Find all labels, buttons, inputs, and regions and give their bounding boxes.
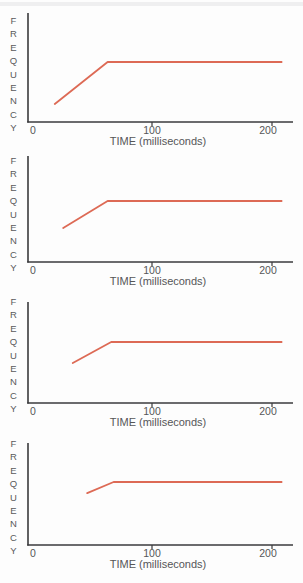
plot-area: 0 100 200 TIME (milliseconds) [0,0,303,160]
figure-four-frequency-time-panels: FREQUENCY 0 100 200 TIME (milliseconds) … [0,0,303,583]
x-tick-label-200: 200 [259,547,277,559]
plot-area: 0 100 200 TIME (milliseconds) [0,281,303,441]
x-tick-label-0: 0 [30,405,36,417]
chart-panel-1: FREQUENCY 0 100 200 TIME (milliseconds) [0,0,303,160]
x-tick-label-0: 0 [30,124,36,136]
x-tick-label-0: 0 [30,264,36,276]
frequency-trace [63,201,281,228]
plot-area: 0 100 200 TIME (milliseconds) [0,140,303,300]
x-tick-label-200: 200 [259,405,277,417]
x-tick-label-0: 0 [30,547,36,559]
frequency-trace [87,482,281,493]
chart-panel-3: FREQUENCY 0 100 200 TIME (milliseconds) [0,281,303,441]
plot-area: 0 100 200 TIME (milliseconds) [0,423,303,583]
chart-panel-2: FREQUENCY 0 100 200 TIME (milliseconds) [0,140,303,300]
chart-panel-4: FREQUENCY 0 100 200 TIME (milliseconds) [0,423,303,583]
frequency-trace [55,62,282,104]
x-axis-label: TIME (milliseconds) [110,558,207,570]
x-tick-label-200: 200 [259,124,277,136]
frequency-trace [73,342,282,363]
x-tick-label-200: 200 [259,264,277,276]
